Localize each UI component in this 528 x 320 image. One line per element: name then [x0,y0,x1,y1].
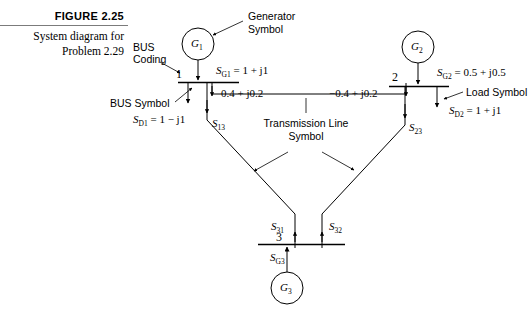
label-s31: S31 [271,220,284,237]
label-sg2: SG2 = 0.5 + j0.5 [437,66,506,83]
annotation-bus-coding-line-1: BUS [133,41,155,53]
annotation-transmission-line-1: Transmission Line [246,117,366,130]
generator-label-g3: G3 [280,281,292,298]
generator-label-g1: G1 [191,37,203,54]
label-s32: S32 [329,220,342,237]
label-flow-1-2-right: −0.4 + j0.2 [329,87,377,99]
figure-container: FIGURE 2.25 System diagram for Problem 2… [0,0,528,320]
annotation-load-symbol: Load Symbol [466,86,527,98]
label-s13: S13 [212,117,225,134]
transmission-line-2-3 [322,87,405,242]
label-sd1: SD1 = 1 − j1 [133,113,185,130]
annotation-generator-symbol-line-1: Generator [248,10,295,22]
annotation-generator-symbol-line-2: Symbol [248,23,283,35]
annotation-bus-coding-line-2: Coding [133,53,166,65]
leader-load-symbol [444,92,463,99]
annotation-bus-symbol: BUS Symbol [110,97,170,109]
transmission-line-1-3 [207,83,295,242]
label-s23: S23 [409,121,422,138]
leader-transmission-right [322,152,354,170]
label-sg1: SG1 = 1 + j1 [216,64,268,81]
annotation-transmission-line-2: Symbol [246,130,366,143]
leader-transmission-left [254,152,288,171]
label-flow-1-2-left: 0.4 + j0.2 [221,87,263,99]
label-sg3: SG3 [270,251,285,268]
generator-label-g2: G2 [411,40,423,57]
label-sd2: SD2 = 1 + j1 [449,104,501,121]
leader-bus-symbol [175,88,192,102]
system-diagram [0,0,528,320]
bus-number-1: 1 [176,68,182,80]
bus-number-2: 2 [392,71,398,83]
leader-generator-symbol [213,21,243,35]
